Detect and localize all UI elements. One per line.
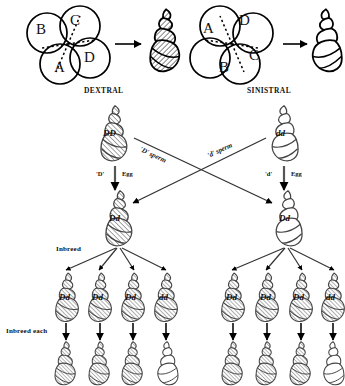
egg-label-right: Egg <box>291 171 302 178</box>
f2-genotype-right-1: Dd <box>226 293 237 302</box>
inbreed-each-label: Inbreed each <box>6 328 47 335</box>
sinistral-caption: SINISTRAL <box>247 87 291 95</box>
f2-genotype-right-4: dd <box>326 293 335 302</box>
inbreed-fan-left <box>66 248 166 270</box>
dextral-cell-label-B: B <box>36 22 46 37</box>
sinistral-adult-shell <box>313 9 342 71</box>
dextral-cell-label-C: C <box>70 13 80 28</box>
f2-genotype-left-4: dd <box>159 293 168 302</box>
sinistral-cell-label-C: C <box>249 48 259 63</box>
f2-genotype-left-2: Dd <box>92 293 103 302</box>
inbreed-each-arrows-left <box>66 323 166 340</box>
f3-shell-left-3 <box>122 342 142 385</box>
dextral-adult-shell <box>150 9 179 71</box>
f2-genotype-right-2: Dd <box>260 293 271 302</box>
sinistral-cell-label-B: B <box>219 60 229 75</box>
f2-genotype-left-1: Dd <box>59 293 70 302</box>
f3-shell-right-1 <box>222 342 242 385</box>
f2-genotype-right-3: Dd <box>293 293 304 302</box>
inbreed-fan-right <box>232 248 334 270</box>
egg-allele-right: 'd' <box>265 171 272 178</box>
sinistral-cell-label-D: D <box>239 13 250 28</box>
f3-shell-left-4 <box>158 342 178 385</box>
parent-genotype-right: dd <box>276 129 285 138</box>
f1-genotype-right: Dd <box>279 214 290 223</box>
sperm-arrow-d <box>133 138 266 203</box>
sperm-arrow-D <box>134 138 272 203</box>
sinistral-embryo-diagram <box>190 6 273 84</box>
dextral-cell-label-D: D <box>84 50 95 65</box>
f3-shell-right-3 <box>290 342 310 385</box>
snail-chirality-figure: B C D A A D C B DEXTRAL SINISTRAL DD dd … <box>0 0 345 386</box>
dextral-embryo-diagram <box>27 6 110 84</box>
f3-shell-left-1 <box>55 342 75 385</box>
f1-genotype-left: Dd <box>109 214 120 223</box>
f2-genotype-left-3: Dd <box>125 293 136 302</box>
figure-canvas <box>0 0 345 386</box>
egg-allele-left: 'D' <box>96 171 104 178</box>
dextral-caption: DEXTRAL <box>84 87 123 95</box>
egg-label-left: Egg <box>122 171 133 178</box>
f3-shell-right-4 <box>324 342 344 385</box>
dextral-cell-label-A: A <box>54 60 65 75</box>
inbreed-label: Inbreed <box>56 246 81 253</box>
f3-shell-left-2 <box>89 342 109 385</box>
sinistral-cell-label-A: A <box>203 21 214 36</box>
f3-shell-right-2 <box>256 342 276 385</box>
parent-genotype-left: DD <box>103 129 116 138</box>
inbreed-each-arrows-right <box>233 323 333 340</box>
